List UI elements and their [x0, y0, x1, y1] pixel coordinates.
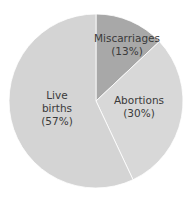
svg-text:Miscarriages: Miscarriages	[94, 32, 160, 44]
svg-text:Abortions: Abortions	[114, 94, 164, 106]
svg-text:births: births	[42, 102, 72, 114]
svg-text:(13%): (13%)	[111, 45, 143, 57]
pie-chart: Miscarriages (13%) Abortions (30%) Live …	[0, 0, 193, 204]
svg-text:Live: Live	[46, 89, 67, 101]
svg-text:(30%): (30%)	[123, 107, 155, 119]
svg-text:(57%): (57%)	[41, 115, 73, 127]
